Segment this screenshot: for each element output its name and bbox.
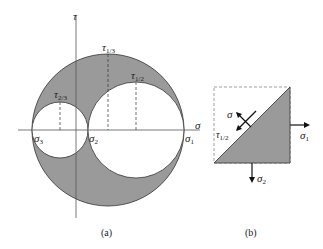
mohr-diagram: τ σ σ3 σ2 σ1 τ1/3 τ1/2 τ2/3 (a) <box>18 10 201 239</box>
shaded-wedge <box>214 87 290 163</box>
caption-a: (a) <box>101 227 112 239</box>
mohr-circle-figure: τ σ σ3 σ2 σ1 τ1/3 τ1/2 τ2/3 (a) σ τ1/2 σ… <box>0 0 323 249</box>
sigma2-arrowhead <box>249 177 255 183</box>
tau-axis-label: τ <box>73 10 78 22</box>
tau12-label-b: τ1/2 <box>216 129 229 142</box>
caption-b: (b) <box>245 227 257 239</box>
sigma-axis-label: σ <box>195 119 201 131</box>
sigma-label: σ <box>227 108 233 120</box>
tau13-label: τ1/3 <box>102 41 115 55</box>
sigma1-label-b: σ1 <box>300 129 309 143</box>
sigma1-label: σ1 <box>185 132 194 146</box>
stress-element: σ τ1/2 σ1 σ2 (b) <box>214 87 310 239</box>
sigma2-label-b: σ2 <box>257 172 266 186</box>
sigma1-arrowhead <box>304 122 310 128</box>
